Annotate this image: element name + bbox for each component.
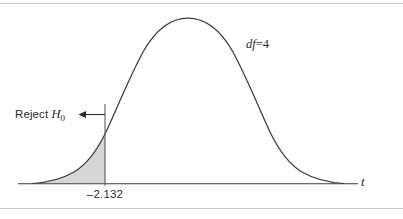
reject-null-hypothesis-label: Reject H0	[15, 108, 65, 123]
density-curve	[32, 18, 344, 184]
t-distribution-figure: Reject H0 df=4 t –2.132	[0, 0, 403, 219]
critical-value-tick-label: –2.132	[78, 189, 132, 201]
rejection-region-shading	[32, 134, 105, 184]
hypothesis-subscript: 0	[61, 113, 66, 123]
hypothesis-letter: H	[51, 107, 60, 121]
df-value: 4	[263, 37, 269, 51]
degrees-of-freedom-label: df=4	[246, 38, 269, 51]
reject-annotation-arrowhead-icon	[79, 111, 87, 118]
reject-label-prefix: Reject	[15, 108, 48, 120]
df-equals-sign: =	[256, 37, 263, 51]
x-axis-label-t: t	[361, 175, 365, 188]
df-symbol: df	[246, 37, 256, 51]
null-hypothesis-symbol: H0	[48, 107, 65, 121]
